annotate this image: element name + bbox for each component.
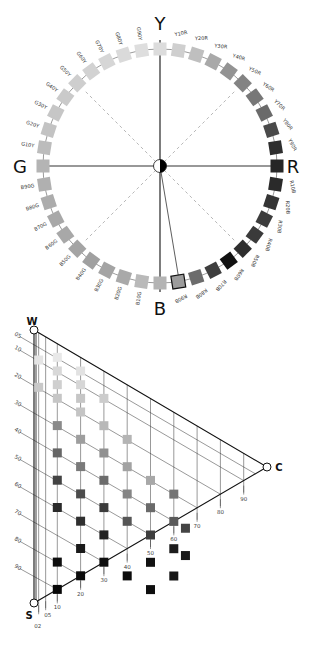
hue-label: B40G — [74, 267, 87, 282]
hue-label: Y40R — [231, 52, 247, 62]
nuance-triangle: 0510203040506070809002051020304050607080… — [13, 316, 282, 629]
vertex-label-s: S — [25, 610, 32, 621]
nuance-swatch — [146, 531, 155, 540]
axis-label-b: B — [154, 298, 166, 319]
hue-swatch — [98, 53, 115, 70]
hue-label: B70G — [33, 220, 48, 232]
hue-swatch — [116, 47, 132, 63]
nuance-swatch — [169, 490, 178, 499]
hue-label: Y10R — [173, 29, 188, 38]
nuance-swatch — [53, 476, 62, 485]
hue-swatch — [37, 160, 50, 173]
hue-label: B20G — [113, 286, 123, 301]
vertex-c-marker — [263, 463, 271, 471]
hue-label: Y80R — [281, 116, 295, 131]
hue-swatch — [56, 226, 74, 244]
hue-swatch — [56, 88, 74, 106]
hue-label: R60B — [233, 268, 246, 283]
chromaticness-tick-label: 60 — [170, 536, 177, 542]
hue-label: G10Y — [21, 140, 36, 148]
hue-swatch — [204, 53, 221, 70]
axis-label-g: G — [13, 156, 27, 177]
hue-label: G40Y — [45, 80, 60, 93]
hue-swatch — [234, 240, 252, 258]
center-marker — [154, 160, 167, 173]
nuance-swatch — [146, 585, 155, 594]
hue-label: R40B — [264, 238, 274, 253]
blackness-tick-label: 10 — [13, 344, 22, 353]
hue-swatch — [263, 194, 279, 210]
chromaticness-tick-label: 50 — [147, 550, 154, 556]
blackness-tick-label: 60 — [13, 481, 22, 490]
hue-label: G70Y — [94, 39, 106, 54]
hue-swatch — [246, 88, 264, 106]
hue-label: Y70R — [272, 97, 287, 111]
hue-label: R50B — [250, 254, 261, 269]
hue-swatch — [41, 194, 57, 210]
nuance-swatch — [76, 462, 85, 471]
axis-label-r: R — [287, 156, 300, 177]
blackness-tick-label: 70 — [13, 508, 22, 517]
hue-circle: Y10RY20RY30RY40RY50RY60RY70RY80RY90RR10B… — [13, 13, 299, 319]
nuance-swatch — [146, 476, 155, 485]
nuance-swatch — [53, 421, 62, 430]
axis-label-y: Y — [154, 13, 167, 34]
nuance-swatch — [76, 517, 85, 526]
nuance-swatch — [76, 380, 85, 389]
hue-label: B80G — [25, 202, 40, 212]
hue-swatch — [134, 43, 149, 58]
hue-swatch — [98, 262, 115, 279]
nuance-swatch — [53, 353, 62, 362]
hue-swatch — [154, 277, 167, 290]
nuance-swatch — [76, 408, 85, 417]
nuance-swatch — [99, 421, 108, 430]
blackness-tick-label: 50 — [13, 453, 22, 462]
hue-swatch — [256, 104, 273, 121]
nuance-swatch — [34, 383, 43, 392]
hue-swatch — [82, 252, 100, 270]
chromaticness-tick-label: 30 — [100, 577, 107, 583]
nuance-swatch — [53, 367, 62, 376]
nuance-swatch — [99, 558, 108, 567]
nuance-swatch — [76, 489, 85, 498]
hue-label: B60G — [44, 238, 59, 251]
hue-label: R90B — [174, 293, 189, 305]
hue-swatch — [154, 43, 167, 56]
nuance-swatch — [34, 356, 43, 365]
hue-swatch — [116, 269, 132, 285]
nuance-swatch — [123, 435, 132, 444]
vertex-label-w: W — [26, 316, 37, 327]
nuance-swatch — [76, 435, 85, 444]
hue-label: G30Y — [34, 99, 49, 111]
hue-swatch — [41, 122, 57, 138]
blackness-tick-label: 90 — [13, 563, 22, 572]
nuance-swatch — [99, 449, 108, 458]
nuance-swatch — [53, 585, 62, 594]
nuance-swatch — [53, 380, 62, 389]
nuance-swatch — [123, 517, 132, 526]
chromaticness-tick-label: 02 — [34, 623, 41, 629]
hue-swatch — [134, 274, 149, 289]
hue-label: R30B — [276, 220, 284, 234]
hue-label: B30G — [93, 278, 105, 293]
vertex-w-marker — [30, 326, 38, 334]
blackness-tick-label: 20 — [13, 372, 22, 381]
hue-label: G80Y — [114, 31, 124, 46]
hue-label: G50Y — [59, 64, 73, 78]
hue-label: B10G — [134, 291, 142, 306]
nuance-swatch — [169, 517, 178, 526]
chromaticness-tick-label: 90 — [240, 496, 247, 502]
hue-swatch — [220, 62, 238, 80]
nuance-swatch — [76, 571, 85, 580]
nuance-swatch — [169, 572, 178, 581]
hue-label: R70B — [214, 279, 228, 293]
nuance-swatch — [123, 571, 132, 580]
selected-hue-line — [160, 166, 178, 276]
hue-swatch — [37, 177, 52, 192]
nuance-swatch — [146, 558, 155, 567]
hue-swatch — [268, 140, 283, 155]
chromaticness-tick-label: 40 — [124, 564, 131, 570]
hue-swatch — [246, 226, 264, 244]
hue-swatch — [37, 140, 52, 155]
blackness-tick-label: 05 — [13, 331, 22, 340]
